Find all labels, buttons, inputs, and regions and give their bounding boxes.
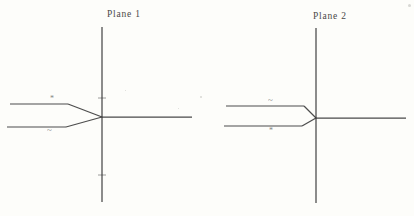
- diagram-groups: [7, 27, 406, 203]
- figure-canvas: Plane 1 Plane 2 *~~*: [0, 0, 414, 216]
- plane-1-lower-sheet-mark: ~: [47, 126, 52, 135]
- plane-1-branch-cut-upper-taper: [68, 104, 102, 117]
- plane-2-group: [224, 28, 406, 203]
- plane-1-branch-cut-lower-taper: [66, 117, 102, 127]
- plane-1-title: Plane 1: [107, 9, 141, 19]
- diagram-vector-layer: [0, 0, 414, 216]
- plane-2-lower-sheet-mark: *: [269, 127, 273, 135]
- plane-1-group: [7, 27, 192, 202]
- scan-speck-1: [178, 108, 179, 109]
- scan-speck-2: [125, 90, 126, 91]
- plane-2-branch-cut-upper-taper: [304, 106, 316, 118]
- plane-2-branch-cut-lower-taper: [302, 118, 316, 126]
- scan-speck-0: [200, 96, 202, 98]
- plane-1-upper-sheet-mark: *: [50, 95, 54, 103]
- plane-2-upper-sheet-mark: ~: [268, 96, 273, 105]
- scan-speck-3: [408, 4, 411, 7]
- plane-2-title: Plane 2: [313, 11, 347, 21]
